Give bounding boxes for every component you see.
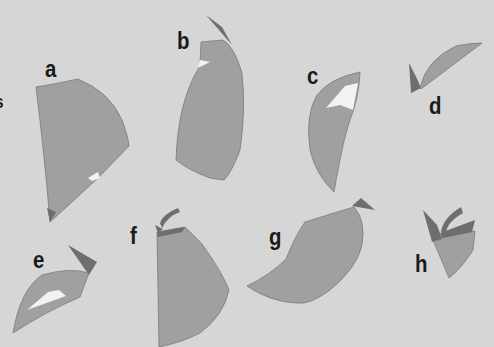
panel-label-d: d xyxy=(429,94,441,118)
shape-d xyxy=(409,43,482,93)
panel-label-g: g xyxy=(269,225,281,249)
shape-g xyxy=(247,198,375,303)
shape-e xyxy=(13,245,97,333)
panel-label-h: h xyxy=(415,252,427,276)
shape-c xyxy=(309,72,360,192)
shape-f xyxy=(155,208,229,347)
panel-label-a: a xyxy=(45,57,56,81)
leaf-shapes-diagram xyxy=(0,0,494,347)
shape-a xyxy=(36,79,129,222)
panel-label-c: c xyxy=(307,64,318,88)
shape-h xyxy=(423,207,475,278)
edge-fragment-label: s xyxy=(0,93,4,111)
panel-label-f: f xyxy=(130,224,137,248)
panel-label-b: b xyxy=(177,29,189,53)
panel-label-e: e xyxy=(33,248,44,272)
